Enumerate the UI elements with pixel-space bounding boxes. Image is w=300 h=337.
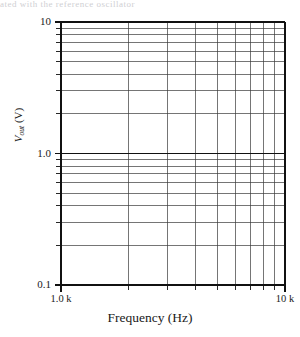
- y-axis-tick-label: 1.0: [13, 148, 51, 159]
- x-axis-tick-label: 1.0 k: [31, 293, 91, 304]
- y-axis-tick-label: 10: [13, 16, 51, 27]
- x-axis-label: Frequency (Hz): [0, 310, 300, 326]
- figure-panel: ated with the reference oscillator Vout …: [0, 0, 300, 337]
- y-axis-label-symbol: V: [12, 135, 24, 142]
- y-axis-tick-label: 0.1: [13, 279, 51, 290]
- x-axis-tick-label: 10 k: [255, 293, 300, 304]
- y-axis-label-unit: (V): [12, 108, 24, 123]
- y-axis-label-subscript: out: [17, 126, 26, 136]
